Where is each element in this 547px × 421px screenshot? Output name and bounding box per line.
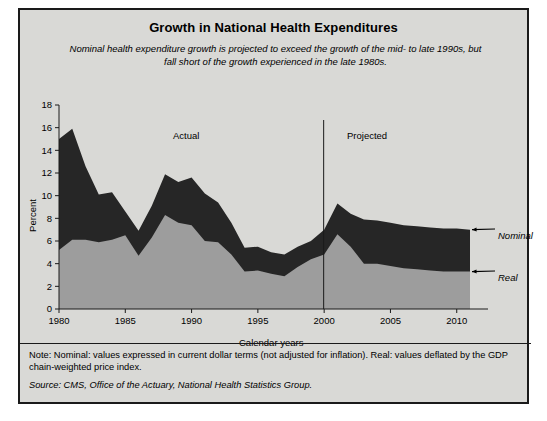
figure-panel: Growth in National Health Expenditures N… [18,8,529,404]
x-tick-label: 2010 [446,315,467,326]
source-text: Source: CMS, Office of the Actuary, Nati… [29,380,522,390]
y-tick-label: 16 [41,122,52,133]
y-tick-label: 0 [47,303,52,314]
x-tick-label: 1995 [247,315,268,326]
real-series-label: Real [498,272,518,283]
x-tick-label: 1985 [115,315,136,326]
callout-arrows-group [472,227,495,273]
actual-region-label: Actual [173,130,199,141]
y-tick-label: 14 [41,145,52,156]
note-text: Note: Nominal: values expressed in curre… [29,349,522,373]
footnote-box: Note: Nominal: values expressed in curre… [20,343,531,404]
real-callout-arrow [472,269,495,273]
x-tick-label: 2005 [380,315,401,326]
x-tick-label: 1990 [181,315,202,326]
y-tick-label: 12 [41,167,52,178]
y-tick-label: 18 [41,99,52,110]
x-tick-label: 1980 [48,315,69,326]
y-tick-label: 4 [47,258,52,269]
x-tick-label: 2000 [314,315,335,326]
y-axis-title: Percent [27,199,38,232]
y-tick-label: 8 [47,213,52,224]
y-tick-label: 10 [41,190,52,201]
y-tick-label: 2 [47,281,52,292]
nominal-callout-arrow [472,227,495,231]
y-tick-label: 6 [47,235,52,246]
projected-region-label: Projected [347,130,387,141]
nominal-series-label: Nominal [498,230,533,241]
